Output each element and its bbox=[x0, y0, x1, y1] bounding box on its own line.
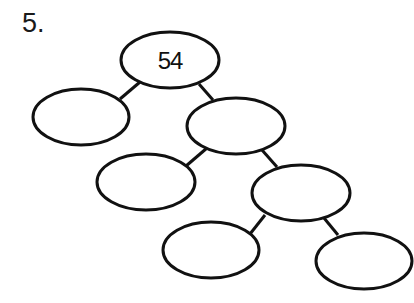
factor-node-left-2[interactable] bbox=[97, 154, 195, 210]
edge-root-left bbox=[120, 82, 140, 99]
edge-root-right bbox=[199, 84, 213, 100]
factor-node-right-1[interactable] bbox=[187, 98, 285, 154]
edge-r2-left bbox=[250, 215, 265, 234]
factor-node-left-1[interactable] bbox=[33, 89, 129, 145]
edge-r2-right bbox=[324, 218, 338, 235]
factor-node-right-2[interactable] bbox=[252, 165, 350, 221]
edge-r1-left bbox=[186, 148, 207, 166]
factor-tree-diagram: 54 bbox=[0, 0, 414, 303]
factor-node-left-3[interactable] bbox=[163, 222, 259, 278]
factor-node-right-3[interactable] bbox=[316, 233, 412, 289]
root-node-label: 54 bbox=[158, 47, 183, 74]
edge-r1-right bbox=[262, 150, 277, 167]
